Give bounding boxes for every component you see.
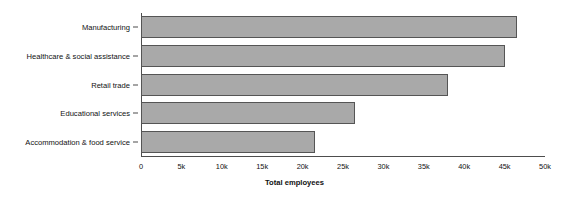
y-axis-label-1: Healthcare & social assistance [0, 51, 130, 60]
y-axis-tick-0 [133, 27, 138, 28]
x-tick-label-3: 15k [256, 162, 268, 171]
y-axis-tick-4 [133, 141, 138, 142]
bar-4 [141, 131, 315, 153]
x-tick-label-4: 20k [297, 162, 309, 171]
y-axis-label-2: Retail trade [0, 80, 130, 89]
x-axis-title-text: Total employees [265, 178, 324, 187]
bar-0 [141, 16, 517, 38]
y-axis-category-labels: ManufacturingHealthcare & social assista… [0, 0, 130, 204]
x-tick-label-10: 50k [539, 162, 551, 171]
bar-2 [141, 74, 448, 96]
y-axis-tick-2 [133, 84, 138, 85]
plot-area [141, 13, 545, 155]
x-tick-label-9: 45k [499, 162, 511, 171]
x-tick-label-1: 5k [177, 162, 185, 171]
x-tick-label-8: 40k [458, 162, 470, 171]
bar-chart: ManufacturingHealthcare & social assista… [0, 0, 585, 204]
y-axis-tick-3 [133, 113, 138, 114]
bar-1 [141, 45, 505, 67]
y-axis-label-0: Manufacturing [0, 23, 130, 32]
x-tick-label-6: 30k [377, 162, 389, 171]
x-axis-line [141, 156, 545, 157]
x-tick-label-2: 10k [216, 162, 228, 171]
bar-3 [141, 102, 355, 124]
y-axis-label-4: Accommodation & food service [0, 137, 130, 146]
y-axis-label-3: Educational services [0, 109, 130, 118]
x-tick-label-7: 35k [418, 162, 430, 171]
x-axis-title: Total employees [0, 178, 585, 187]
x-tick-label-5: 25k [337, 162, 349, 171]
y-axis-tick-1 [133, 55, 138, 56]
x-tick-label-0: 0 [139, 162, 143, 171]
